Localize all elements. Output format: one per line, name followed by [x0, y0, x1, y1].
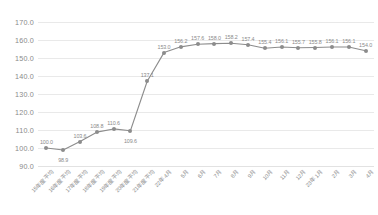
data-point [313, 46, 317, 50]
data-point [280, 45, 284, 49]
y-axis-tick-label: 120.0 [15, 108, 34, 117]
data-point [95, 130, 99, 134]
data-point-label: 156.2 [174, 38, 187, 44]
data-point [179, 45, 183, 49]
x-axis-tick-label: 22年 4月 [153, 168, 174, 189]
data-point [347, 45, 351, 49]
x-axis-tick-label: 10月 [261, 168, 275, 182]
y-axis-tick-label: 110.0 [16, 126, 34, 135]
data-point-label: 156.1 [326, 38, 339, 44]
chart-container: 170.0160.0150.0140.0130.0120.0110.0100.0… [0, 0, 378, 215]
data-point [246, 43, 250, 47]
x-axis-tick-label: 11月 [278, 168, 292, 182]
data-point-label: 154.0 [359, 42, 372, 48]
data-point-label: 153.0 [158, 44, 171, 50]
data-point [162, 51, 166, 55]
x-axis-tick-labels: 15年度平均16年度平均17年度平均18年度平均19年度平均20年度平均21年度… [38, 168, 374, 208]
data-point-label: 156.1 [342, 38, 355, 44]
x-axis-tick-label: 23年 1月 [304, 168, 325, 189]
data-point [78, 140, 82, 144]
data-point-label: 157.6 [191, 35, 204, 41]
x-axis-tick-label: 4月 [363, 168, 375, 180]
data-point-label: 158.2 [225, 34, 238, 40]
data-point [112, 127, 116, 131]
data-point-label: 137.1 [141, 72, 154, 78]
y-axis-tick-label: 140.0 [15, 72, 34, 81]
plot-area: 100.098.9103.6108.8110.6109.6137.1153.01… [38, 22, 374, 166]
data-point [330, 45, 334, 49]
y-axis-tick-label: 90.0 [19, 162, 34, 171]
series-line [38, 22, 374, 166]
data-point-label: 156.1 [275, 38, 288, 44]
data-point-label: 100.0 [40, 139, 53, 145]
x-axis-tick-label: 5月 [179, 168, 191, 180]
data-point-label: 155.8 [309, 39, 322, 45]
data-point-label: 155.7 [292, 39, 305, 45]
y-axis-tick-label: 100.0 [15, 144, 34, 153]
x-axis-tick-label: 7月 [212, 168, 224, 180]
data-point-label: 108.8 [90, 123, 103, 129]
data-point-label: 158.0 [208, 35, 221, 41]
x-axis-tick-label: 9月 [246, 168, 258, 180]
y-axis-tick-label: 170.0 [15, 18, 34, 27]
x-axis-tick-label: 2月 [330, 168, 342, 180]
data-point-label: 109.6 [124, 138, 137, 144]
x-axis-tick-label: 8月 [229, 168, 241, 180]
data-point [364, 49, 368, 53]
data-point-label: 155.4 [258, 39, 271, 45]
y-axis-tick-label: 130.0 [15, 90, 34, 99]
x-axis-tick-label: 6月 [195, 168, 207, 180]
y-axis-tick-label: 160.0 [15, 36, 34, 45]
gridline [38, 166, 374, 167]
y-axis-tick-labels: 170.0160.0150.0140.0130.0120.0110.0100.0… [0, 22, 34, 166]
y-axis-tick-label: 150.0 [15, 54, 34, 63]
x-axis-tick-label: 3月 [347, 168, 359, 180]
data-point-label: 157.4 [242, 36, 255, 42]
data-point-label: 98.9 [58, 157, 68, 163]
data-point-label: 110.6 [107, 120, 120, 126]
data-point-label: 103.6 [74, 133, 87, 139]
data-point [196, 42, 200, 46]
